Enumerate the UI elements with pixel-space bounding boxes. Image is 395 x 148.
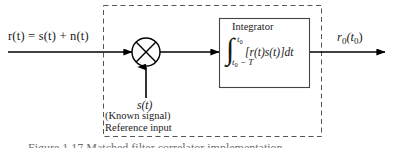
integral-expression: ∫ t0 t0 − T [r(t)s(t)]dt: [226, 36, 294, 70]
known-signal-label: (Known signal): [105, 111, 171, 122]
integral-sign-group: ∫ t0 t0 − T: [226, 36, 242, 70]
diagram-canvas: [0, 0, 395, 148]
integral-upper-limit-sub: 0: [240, 38, 243, 45]
integral-lower-limit-rest: − T: [238, 57, 254, 67]
integral-upper-limit: t0: [237, 35, 243, 45]
integral-lower-limit: t0 − T: [232, 58, 253, 68]
output-label-paren-open: (t: [346, 30, 354, 44]
figure-caption: Figure 1.17 Matched filter correlator im…: [28, 141, 286, 148]
output-signal-label: r0(t0): [337, 31, 363, 46]
output-label-paren-close: ): [359, 30, 363, 44]
input-signal-label: r(t) = s(t) + n(t): [8, 30, 89, 43]
integrator-title-label: Integrator: [232, 22, 273, 33]
reference-input-label: Reference input: [105, 123, 172, 134]
figure-matched-filter-correlator: r(t) = s(t) + n(t) Integrator ∫ t0 t0 − …: [0, 0, 395, 148]
